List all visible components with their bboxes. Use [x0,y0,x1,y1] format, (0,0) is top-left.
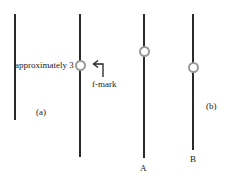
ring-A [139,46,150,57]
rod-a-right [79,14,81,157]
panel-b-label: (b) [206,101,217,111]
rod-A [143,14,145,158]
rod-A-label: A [140,163,147,173]
f-mark-label: f-mark [92,79,117,89]
arrow-icon [92,60,108,78]
ring-B [188,62,199,73]
rod-B-label: B [190,154,196,164]
panel-a-label: (a) [36,107,46,117]
rod-B [192,14,194,150]
f-mark-ring-a [75,60,86,71]
approximately-label: approximately 3 [15,60,74,70]
